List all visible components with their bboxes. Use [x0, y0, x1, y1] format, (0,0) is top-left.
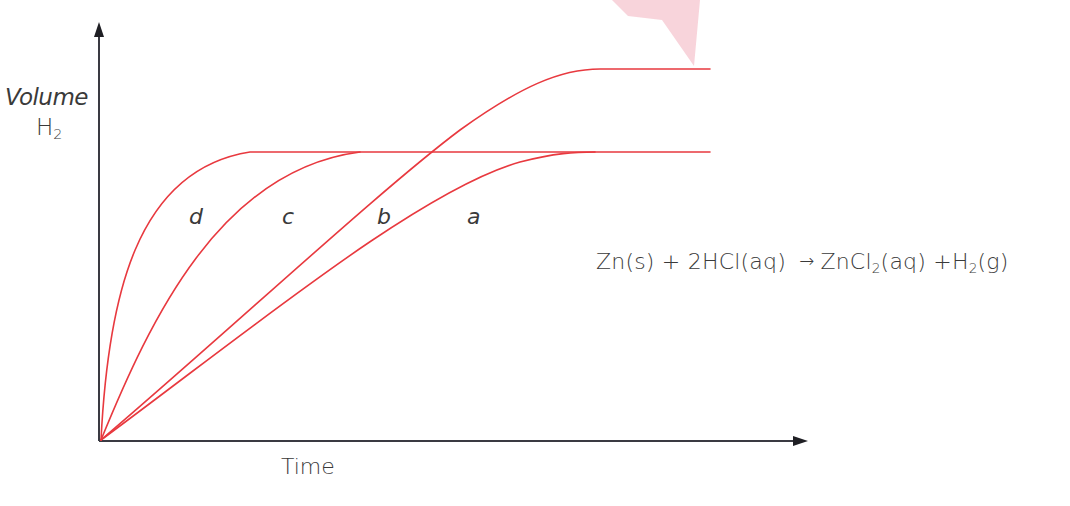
plus-sign: + [662, 249, 681, 274]
y-axis-arrowhead-icon [94, 22, 104, 37]
y-axis-label-species: H2 [36, 116, 62, 139]
highlight-arrow-icon [612, 0, 700, 66]
h2-subscript: 2 [969, 260, 978, 276]
curve-label-c: c [282, 206, 294, 228]
species-symbol: H [36, 114, 53, 140]
reactant-hcl: 2HCl(aq) [688, 249, 786, 274]
curve-label-a: a [467, 206, 480, 228]
reactant-zinc: Zn(s) [596, 249, 655, 274]
curve-c [101, 152, 360, 440]
curve-d [101, 152, 710, 440]
h2-state: (g) [978, 249, 1009, 274]
zncl-state: (aq) [881, 249, 926, 274]
product-zinc-chloride: ZnCl2(aq) [820, 249, 926, 274]
curve-a [101, 152, 595, 440]
plus-sign: + [933, 249, 952, 274]
y-axis-label: Volume [5, 86, 88, 109]
zncl-subscript: 2 [872, 260, 881, 276]
h2-prefix: H [952, 249, 969, 274]
species-subscript: 2 [53, 126, 62, 142]
curve-label-b: b [377, 206, 391, 228]
reaction-rate-diagram: Volume H2 Time d c b a Zn(s) + 2HCl(aq) … [0, 0, 1070, 506]
chemical-equation: Zn(s) + 2HCl(aq) →ZnCl2(aq) +H2(g) [596, 251, 1008, 273]
zncl-prefix: ZnCl [820, 249, 871, 274]
x-axis-arrowhead-icon [793, 436, 808, 446]
product-hydrogen: H2(g) [952, 249, 1009, 274]
reaction-arrow-icon: → [799, 250, 814, 271]
curve-label-d: d [189, 206, 203, 228]
x-axis-label: Time [281, 456, 335, 478]
